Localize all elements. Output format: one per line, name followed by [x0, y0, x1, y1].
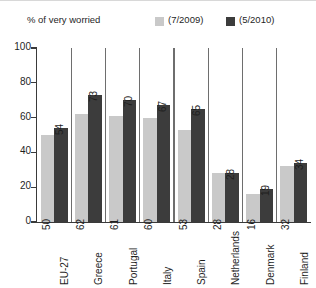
group-separator-line [71, 48, 72, 222]
group-separator-line [139, 48, 140, 222]
y-axis-tick [31, 152, 37, 153]
group-separator-line [276, 48, 277, 222]
group-separator-line [242, 48, 243, 222]
y-axis-tick [31, 47, 37, 48]
y-axis-tick [31, 117, 37, 118]
group-separator-line [208, 48, 209, 222]
group-separator-line [173, 48, 174, 222]
y-axis-tick [31, 187, 37, 188]
x-axis-category-label: Greece [93, 252, 104, 285]
group-separator-line [105, 48, 106, 222]
x-axis-category-label: Finland [299, 252, 310, 285]
x-axis-category-label: EU-27 [59, 257, 70, 285]
x-axis-category-label: Netherlands [230, 231, 241, 285]
x-axis-category-label: Portugal [128, 248, 139, 285]
x-axis-category-label: Denmark [265, 244, 276, 285]
y-axis-tick [31, 82, 37, 83]
category-labels: EU-27GreecePortugalItalySpainNetherlands… [0, 0, 316, 288]
x-axis-category-label: Italy [162, 267, 173, 285]
y-axis-tick [31, 221, 37, 222]
x-axis-category-label: Spain [196, 259, 207, 285]
